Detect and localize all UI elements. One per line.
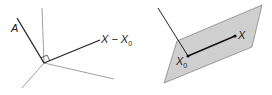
- label-x-minus-x0-subscript: 0: [128, 40, 132, 47]
- left-figure: [17, 8, 114, 88]
- label-x-text: X: [238, 29, 245, 41]
- thin-axis-up: [42, 8, 44, 63]
- point-x: [233, 34, 236, 37]
- plane: [164, 5, 262, 83]
- displacement-vector: [44, 40, 100, 63]
- thin-axis-down-left: [22, 63, 44, 88]
- label-a: A: [11, 22, 18, 34]
- normal-vector-a: [17, 18, 44, 63]
- thin-axis-right: [44, 63, 114, 79]
- label-x0-subscript: 0: [183, 62, 187, 69]
- label-a-text: A: [11, 22, 18, 34]
- right-figure: [158, 5, 262, 83]
- label-x-minus-x0: X − X0: [101, 33, 132, 47]
- label-x0: X0: [176, 55, 187, 69]
- label-x: X: [238, 29, 245, 41]
- label-x-minus-x0-text: X − X: [101, 33, 128, 45]
- diagram-canvas: [0, 0, 272, 95]
- normal-line: [158, 8, 188, 56]
